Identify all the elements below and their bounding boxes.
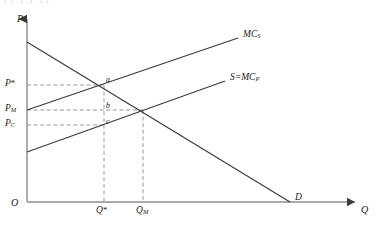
point-label-c: c [106, 118, 110, 126]
curve-mc-social [27, 38, 238, 110]
origin-label: O [11, 198, 18, 208]
price-tick-p-star: P* [5, 79, 15, 89]
point-label-b: b [106, 102, 110, 110]
curve-label-mc-social: MCS [243, 30, 260, 40]
price-tick-p-m: PM [5, 104, 16, 114]
diagram-canvas [0, 0, 377, 232]
externality-diagram: I I .I ,I .I I P Q O P* PM PC Q* [0, 0, 377, 232]
point-label-a: a [106, 76, 110, 84]
y-axis-label: P [17, 14, 23, 24]
price-tick-p-c: PC [5, 119, 15, 129]
curve-label-demand: D [295, 193, 302, 203]
quantity-tick-q-m: QM [136, 206, 148, 216]
curve-label-supply-mc-private: S=MCP [230, 73, 259, 83]
x-axis-label: Q [361, 205, 368, 215]
quantity-tick-q-star: Q* [96, 206, 107, 216]
curve-supply-mc-private [27, 81, 225, 152]
curve-demand [27, 42, 290, 202]
